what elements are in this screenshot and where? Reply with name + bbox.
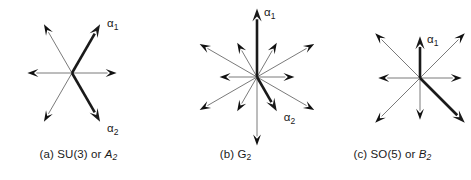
caption-a-conjunction: or bbox=[91, 148, 101, 160]
root-vector-c-0deg bbox=[420, 74, 462, 82]
caption-a-prefix: (a) bbox=[40, 148, 54, 160]
root-vector-c-135deg bbox=[375, 33, 420, 78]
root-vector-c-90deg bbox=[415, 36, 424, 78]
root-vector-c-180deg bbox=[378, 74, 420, 82]
root-diagram-c: α1α2 bbox=[314, 0, 471, 148]
caption-c-prefix: (c) bbox=[354, 148, 368, 160]
root-label-b-alpha2: α2 bbox=[284, 111, 296, 126]
root-vector-c-270deg bbox=[416, 78, 424, 120]
root-vector-b-270deg bbox=[253, 77, 261, 145]
diagram-panel-c: α1α2 (c) SO(5) or B2 bbox=[314, 0, 471, 180]
root-vector-b-120deg bbox=[237, 43, 257, 77]
root-vector-b-210deg bbox=[200, 77, 257, 110]
caption-a-group: SU(3) bbox=[57, 148, 88, 160]
root-vector-c-225deg bbox=[375, 78, 420, 123]
caption-c-algebra-letter: B bbox=[419, 148, 427, 160]
root-diagram-b: α1α2 bbox=[157, 0, 314, 148]
root-label-a-alpha2: α2 bbox=[107, 122, 119, 137]
root-vector-a-180deg bbox=[27, 69, 72, 77]
root-vector-a-0deg bbox=[72, 69, 117, 77]
root-label-b-alpha1: α1 bbox=[264, 6, 276, 21]
root-diagram-a: α1α2 bbox=[0, 0, 157, 148]
root-vector-b-300deg bbox=[257, 77, 277, 111]
caption-c: (c) SO(5) or B2 bbox=[314, 148, 471, 162]
root-system-figure: α1α2 (a) SU(3) or A2 α1α2 (b) G2 α1α2 (c… bbox=[0, 0, 471, 180]
root-vector-b-150deg bbox=[200, 44, 257, 77]
caption-c-algebra-rank: 2 bbox=[427, 152, 432, 162]
root-label-c-alpha1: α1 bbox=[427, 33, 439, 48]
root-vector-b-30deg bbox=[257, 44, 314, 77]
caption-a-algebra-rank: 2 bbox=[113, 152, 118, 162]
caption-a: (a) SU(3) or A2 bbox=[0, 148, 157, 162]
caption-c-group: SO(5) bbox=[371, 148, 402, 160]
root-vector-a-120deg bbox=[44, 24, 72, 73]
diagram-panel-a: α1α2 (a) SU(3) or A2 bbox=[0, 0, 157, 180]
root-vector-b-240deg bbox=[237, 77, 257, 111]
root-vector-c-315deg bbox=[420, 78, 465, 123]
caption-b: (b) G2 bbox=[157, 148, 314, 162]
caption-b-algebra-rank: 2 bbox=[246, 152, 251, 162]
caption-c-conjunction: or bbox=[405, 148, 415, 160]
root-vector-b-60deg bbox=[257, 43, 277, 77]
root-vector-a-240deg bbox=[44, 73, 72, 122]
root-vector-b-90deg bbox=[252, 9, 261, 77]
caption-a-algebra-letter: A bbox=[105, 148, 113, 160]
root-label-a-alpha1: α1 bbox=[107, 17, 119, 32]
root-vector-a-60deg bbox=[72, 24, 100, 73]
diagram-panel-b: α1α2 (b) G2 bbox=[157, 0, 314, 180]
caption-b-prefix: (b) bbox=[220, 148, 234, 160]
root-vector-a-300deg bbox=[72, 73, 100, 122]
